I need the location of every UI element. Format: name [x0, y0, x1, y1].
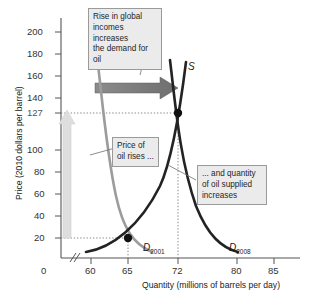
x-tick-label-85: 85: [268, 266, 279, 276]
y-tick-label-60: 60: [34, 189, 45, 199]
x-tick-label-80: 80: [231, 266, 242, 276]
curve-label-d2008-subscript: 2008: [236, 248, 250, 255]
equilibrium-point-2001: [124, 234, 132, 242]
x-axis-title: Quantity (millions of barrels per day): [142, 281, 280, 290]
y-tick-label-100: 100: [27, 145, 43, 155]
figure-panel: Price (2010 dollars per barrel) 200 180 …: [0, 0, 312, 299]
equilibrium-point-2008: [174, 109, 182, 117]
curve-d2008: [170, 60, 238, 252]
demand-shift-note: Rise in global incomes increases the dem…: [88, 8, 162, 70]
curve-label-d2001: D2001: [143, 243, 165, 256]
y-tick-marks: [55, 32, 61, 238]
y-tick-label-80: 80: [34, 167, 45, 177]
y-axis-title: Price (2010 dollars per barrel): [14, 86, 24, 200]
x-tick-marks: [91, 258, 274, 264]
y-tick-label-140: 140: [27, 93, 43, 103]
x-tick-label-60: 60: [85, 266, 96, 276]
y-tick-label-20: 20: [34, 233, 45, 243]
quantity-increase-note: ... and quantity of oil supplied increas…: [197, 165, 267, 205]
y-tick-label-40: 40: [34, 211, 45, 221]
y-tick-label-160: 160: [27, 71, 43, 81]
curve-label-d2001-subscript: 2001: [150, 248, 164, 255]
x-tick-label-72: 72: [172, 266, 183, 276]
x-tick-label-65: 65: [122, 266, 133, 276]
y-axis-origin-label: 0: [41, 266, 46, 276]
y-tick-label-127: 127: [27, 108, 43, 118]
demand-shift-arrow: [95, 77, 178, 99]
y-tick-label-200: 200: [27, 27, 43, 37]
curve-label-d2008: D2008: [229, 243, 251, 256]
price-rise-note: Price of oil rises ...: [112, 137, 159, 167]
y-tick-label-180: 180: [27, 49, 43, 59]
curve-label-supply: S: [188, 62, 195, 72]
